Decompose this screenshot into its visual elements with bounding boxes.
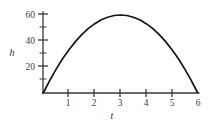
x-tick-label-5: 5	[170, 98, 175, 108]
y-tick-label-20: 20	[26, 62, 36, 72]
y-tick-label-40: 40	[26, 36, 36, 46]
x-tick-label-1: 1	[66, 98, 71, 108]
y-tick-label-60: 60	[26, 10, 36, 20]
x-axis-title: t	[111, 110, 114, 121]
x-tick-label-3: 3	[118, 98, 123, 108]
x-tick-label-4: 4	[144, 98, 149, 108]
height-curve	[44, 15, 198, 93]
parabola-plot: 60 40 20 1 2 3 4 5 6 h t	[0, 0, 215, 128]
x-tick-label-2: 2	[92, 98, 97, 108]
chart-figure: 60 40 20 1 2 3 4 5 6 h t	[0, 0, 215, 128]
x-tick-label-6: 6	[196, 98, 201, 108]
y-axis-title: h	[10, 47, 15, 58]
